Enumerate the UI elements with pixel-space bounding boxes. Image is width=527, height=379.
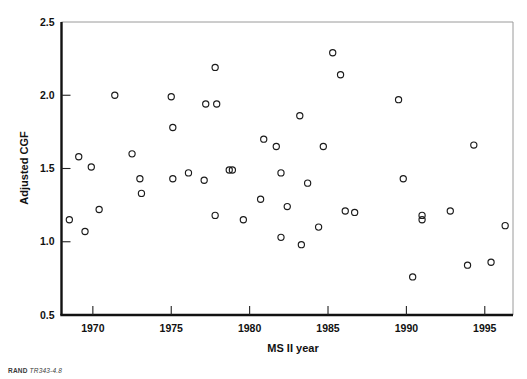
- data-point: [316, 224, 322, 230]
- data-point: [284, 203, 290, 209]
- y-tick-label: 1.5: [40, 162, 55, 174]
- x-axis-ticks: 197019751980198519901995: [81, 306, 496, 334]
- source-brand: RAND: [8, 367, 28, 374]
- data-point: [488, 259, 494, 265]
- data-point: [471, 142, 477, 148]
- data-point: [138, 190, 144, 196]
- data-point: [82, 228, 88, 234]
- data-point: [278, 170, 284, 176]
- data-point: [129, 151, 135, 157]
- scatter-plot-figure: 0.51.01.52.02.5 197019751980198519901995…: [0, 0, 527, 379]
- data-point: [203, 101, 209, 107]
- data-point: [342, 208, 348, 214]
- source-code: TR343-4.8: [30, 367, 63, 374]
- data-point: [273, 143, 279, 149]
- data-point: [297, 113, 303, 119]
- data-point: [261, 136, 267, 142]
- data-point: [305, 180, 311, 186]
- data-point: [502, 223, 508, 229]
- data-point: [112, 92, 118, 98]
- data-point: [240, 217, 246, 223]
- data-point: [212, 212, 218, 218]
- data-point: [137, 176, 143, 182]
- x-tick-label: 1985: [316, 322, 340, 334]
- y-tick-label: 0.5: [40, 309, 55, 321]
- data-point: [170, 176, 176, 182]
- data-point: [320, 143, 326, 149]
- data-point: [170, 124, 176, 130]
- data-point: [330, 50, 336, 56]
- chart-canvas: 0.51.01.52.02.5 197019751980198519901995…: [0, 0, 527, 379]
- data-point: [400, 176, 406, 182]
- y-axis-title: Adjusted CGF: [18, 131, 30, 205]
- y-tick-label: 2.5: [40, 16, 55, 28]
- data-point: [212, 64, 218, 70]
- y-tick-label: 1.0: [40, 235, 55, 247]
- data-point: [66, 217, 72, 223]
- data-point: [337, 72, 343, 78]
- y-axis-ticks: 0.51.01.52.02.5: [40, 16, 71, 321]
- data-point: [168, 94, 174, 100]
- plot-frame: [60, 22, 513, 315]
- x-tick-label: 1990: [395, 322, 419, 334]
- figure-source-note: RANDTR343-4.8: [8, 367, 62, 374]
- x-tick-label: 1970: [81, 322, 105, 334]
- data-point: [278, 234, 284, 240]
- data-point: [88, 164, 94, 170]
- data-point: [352, 209, 358, 215]
- x-axis-title: MS II year: [267, 342, 319, 354]
- data-point: [214, 101, 220, 107]
- data-points: [66, 50, 508, 280]
- x-tick-label: 1975: [160, 322, 184, 334]
- x-tick-label: 1995: [473, 322, 497, 334]
- y-tick-label: 2.0: [40, 89, 55, 101]
- data-point: [185, 170, 191, 176]
- data-point: [410, 274, 416, 280]
- data-point: [464, 262, 470, 268]
- data-point: [395, 97, 401, 103]
- data-point: [419, 217, 425, 223]
- data-point: [96, 206, 102, 212]
- data-point: [201, 177, 207, 183]
- x-tick-label: 1980: [238, 322, 262, 334]
- data-point: [258, 196, 264, 202]
- data-point: [298, 242, 304, 248]
- data-point: [76, 154, 82, 160]
- data-point: [447, 208, 453, 214]
